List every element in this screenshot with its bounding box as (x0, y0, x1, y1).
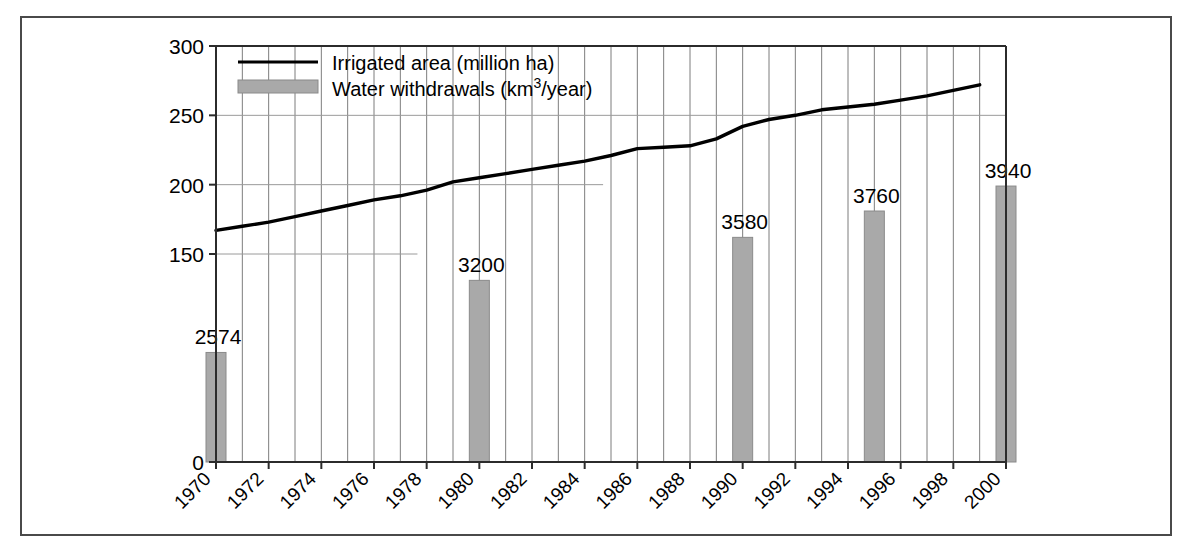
x-tick-label: 1980 (433, 468, 478, 513)
chart-canvas: 2574320035803760394001502002503001970197… (0, 0, 1190, 554)
x-tick-label: 1992 (749, 468, 794, 513)
x-tick-label: 1988 (644, 468, 689, 513)
x-tick-label: 1970 (170, 468, 215, 513)
y-tick-label: 300 (169, 35, 204, 58)
bar-value-label: 3200 (458, 253, 505, 276)
x-tick-label: 1972 (223, 468, 268, 513)
x-tick-label: 1984 (539, 468, 584, 513)
x-tick-label: 1996 (855, 468, 900, 513)
bar-value-label: 2574 (195, 325, 242, 348)
y-tick-label: 200 (169, 174, 204, 197)
bar (469, 280, 489, 462)
x-tick-label: 1974 (275, 468, 320, 513)
bar (864, 211, 884, 462)
bar-value-label: 3580 (721, 210, 768, 233)
x-tick-label: 1976 (328, 468, 373, 513)
x-tick-label: 1998 (907, 468, 952, 513)
x-tick-label: 1986 (591, 468, 636, 513)
x-tick-label: 1982 (486, 468, 531, 513)
x-tick-label: 1990 (697, 468, 742, 513)
bar-value-label: 3940 (985, 159, 1032, 182)
chart-svg: 2574320035803760394001502002503001970197… (0, 0, 1190, 554)
x-tick-label: 2000 (960, 468, 1005, 513)
x-tick-label: 1978 (381, 468, 426, 513)
legend-label-irrigated-area: Irrigated area (million ha) (332, 52, 554, 74)
bar-value-label: 3760 (853, 184, 900, 207)
y-tick-label: 250 (169, 104, 204, 127)
x-tick-label: 1994 (802, 468, 847, 513)
bar (733, 237, 753, 462)
line-series-irrigated-area (216, 85, 980, 231)
legend-swatch-marker (238, 80, 318, 93)
y-tick-label: 150 (169, 243, 204, 266)
legend-label-water-withdrawals: Water withdrawals (km3/year) (332, 75, 592, 100)
